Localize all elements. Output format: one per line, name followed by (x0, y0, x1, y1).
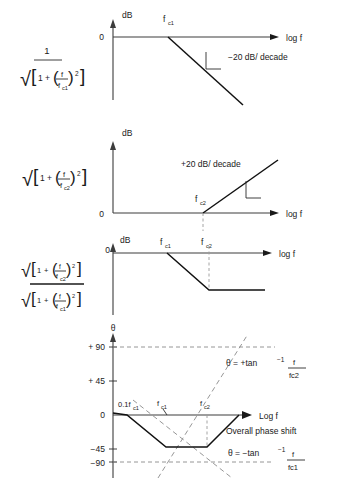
formula3-den-exp: 2 (72, 293, 75, 299)
panel-1-corner-sub: c1 (168, 20, 174, 26)
formula1-plus: + (45, 73, 50, 83)
panel-4-lead-frac-den: fc2 (289, 371, 299, 380)
formula1-numerator: 1 (44, 45, 49, 56)
panel-4-marker-fc1: f (157, 399, 160, 408)
panel-4-lag-exponent: −1 (278, 446, 286, 453)
formula3-den-plus: + (44, 296, 49, 305)
panel-4-annotation-lag: θ = −tan −1 f fc1 (228, 446, 305, 472)
panel-1-corner-label: f (163, 14, 166, 24)
panel-1-x-axis-label: log f (286, 33, 303, 43)
panel-2-zero-label: 0 (99, 209, 104, 219)
panel-3-corner1-label: f (160, 237, 163, 247)
formula3-den-sqrt-sign: √ (21, 291, 31, 311)
formula2-inner-one: 1 (40, 173, 45, 183)
bode-plot-figure: 1 √ [ 1 + ( f f c1 ) 2 ] dB 0 log f f c1 (0, 0, 338, 483)
formula1-paren-close: ) (68, 68, 74, 87)
panel-2-formula: √ [ 1 + ( f f c2 ) 2 ] (22, 165, 87, 191)
panel-2-corner-sub: c2 (200, 200, 206, 206)
formula1-bracket-open: [ (31, 65, 37, 86)
panel-4-phase-curve (113, 413, 239, 447)
formula2-f-den: f (60, 181, 63, 190)
panel-2-y-arrow (110, 141, 116, 150)
panel-4-marker-0p1fc1-sub: c1 (133, 405, 139, 411)
formula3-den-paren-close: ) (66, 291, 71, 308)
formula1-f-num: f (61, 70, 64, 79)
panel-1-rolloff-curve (168, 37, 243, 105)
formula2-exponent: 2 (77, 170, 81, 177)
panel-2-x-axis-label: log f (286, 209, 303, 219)
panel-4-x-axis-label: Log f (259, 411, 279, 421)
panel-1-zero-label: 0 (99, 32, 104, 42)
formula3-num-f: f (59, 263, 61, 270)
panel-4-marker-fc1-sub: c1 (161, 404, 167, 410)
formula3-den-bracket-open: [ (31, 289, 36, 308)
panel-4-lead-exponent: −1 (277, 356, 285, 363)
panel-4-lag-expression: θ = −tan (228, 448, 259, 458)
panel-1-y-axis-label: dB (122, 10, 133, 20)
panel-1: 1 √ [ 1 + ( f f c1 ) 2 ] dB 0 log f f c1 (20, 10, 303, 105)
panel-2-y-axis-label: dB (122, 128, 133, 138)
panel-4-lag-frac-den: fc1 (288, 463, 298, 472)
formula1-bracket-close: ] (80, 65, 85, 86)
panel-4-lead-frac-num: f (293, 358, 296, 367)
panel-4-annotation-lead: θ = +tan −1 f fc2 (226, 356, 306, 380)
panel-4: θ Log f + 90 + 45 0 −45 −90 0.1f c1 f c1… (88, 323, 306, 478)
panel-1-slope-triangle (206, 52, 221, 69)
formula3-num-one: 1 (37, 266, 41, 275)
panel-3: √ [ 1 + ( f f c2 ) 2 ] √ [ 1 + ( f f c1 … (21, 235, 296, 315)
formula3-num-den: f (56, 273, 58, 280)
formula2-bracket-open: [ (33, 165, 39, 186)
formula2-bracket-close: ] (82, 165, 87, 186)
formula3-num-plus: + (44, 266, 49, 275)
formula2-paren-close: ) (70, 168, 76, 187)
panel-3-y-arrow (110, 243, 116, 252)
formula2-plus: + (47, 173, 52, 183)
formula3-den-den: f (56, 303, 58, 310)
panel-4-lead-expression: θ = +tan (226, 358, 257, 368)
panel-4-ytick-zero: 0 (100, 410, 105, 420)
panel-4-ytick-plus90: + 90 (88, 342, 105, 352)
formula2-f-num: f (63, 170, 66, 179)
formula3-den-f: f (59, 293, 61, 300)
formula3-num-exp: 2 (72, 263, 75, 269)
panel-3-x-arrow (263, 250, 272, 256)
panel-1-y-arrow (110, 19, 116, 28)
panel-1-x-arrow (270, 34, 279, 40)
panel-2-corner-label: f (195, 194, 198, 204)
panel-4-lag-frac-num: f (292, 450, 295, 459)
panel-4-ytick-plus45: + 45 (88, 376, 105, 386)
panel-2-slope-label: +20 dB/ decade (181, 159, 241, 169)
panel-1-formula: 1 √ [ 1 + ( f f c1 ) 2 ] (20, 45, 85, 91)
panel-4-x-arrow (242, 411, 252, 419)
formula3-num-paren-close: ) (66, 261, 71, 278)
formula3-den-bracket-close: ] (77, 289, 82, 308)
panel-3-zero-label: 0 (105, 245, 110, 255)
panel-2: √ [ 1 + ( f f c2 ) 2 ] dB 0 log f f c2 (22, 128, 303, 231)
formula1-inner-one: 1 (38, 73, 43, 83)
formula1-f-den: f (58, 81, 61, 90)
formula1-exponent: 2 (75, 70, 79, 77)
panel-4-marker-0p1fc1: 0.1f (118, 400, 131, 409)
panel-2-slope-triangle (246, 181, 261, 198)
formula1-sqrt-sign: √ (20, 68, 31, 90)
panel-4-lag-asymptote (133, 400, 232, 478)
panel-3-response-curve (167, 253, 265, 290)
formula3-num-sqrt-sign: √ (21, 261, 31, 281)
formula2-sqrt-sign: √ (22, 168, 33, 190)
panel-3-corner1-sub: c1 (165, 243, 171, 249)
formula3-num-bracket-close: ] (77, 259, 82, 278)
panel-4-marker-fc2-sub: c2 (204, 404, 210, 410)
panel-3-x-axis-label: log f (279, 249, 296, 259)
panel-4-y-arrow (110, 333, 116, 342)
panel-4-marker-fc2: f (200, 399, 203, 408)
panel-3-y-axis-label: dB (120, 235, 131, 245)
formula3-num-bracket-open: [ (31, 259, 36, 278)
panel-4-caption: Overall phase shift (226, 426, 297, 436)
panel-3-formula: √ [ 1 + ( f f c2 ) 2 ] √ [ 1 + ( f f c1 … (21, 259, 84, 312)
panel-4-y-axis-label: θ (111, 323, 116, 333)
formula3-den-one: 1 (37, 296, 41, 305)
panel-2-x-arrow (270, 210, 279, 216)
panel-3-corner2-label: f (201, 237, 204, 247)
panel-4-ytick-minus90: −90 (91, 458, 106, 468)
panel-1-slope-label: −20 dB/ decade (228, 52, 288, 62)
